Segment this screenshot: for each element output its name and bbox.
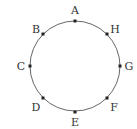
point-a	[74, 20, 77, 23]
circle-diagram: ABCDEFGH	[0, 0, 137, 129]
point-g	[119, 65, 122, 68]
point-c	[29, 65, 32, 68]
point-h	[106, 33, 109, 36]
point-label-f: F	[110, 101, 118, 114]
point-label-d: D	[32, 101, 41, 114]
point-label-e: E	[71, 116, 79, 129]
point-label-h: H	[110, 23, 120, 36]
point-label-b: B	[32, 23, 40, 36]
point-label-g: G	[125, 60, 134, 73]
point-label-c: C	[17, 60, 25, 73]
point-f	[106, 97, 109, 100]
point-b	[42, 33, 45, 36]
point-e	[74, 111, 77, 114]
point-label-a: A	[70, 4, 80, 17]
point-d	[42, 97, 45, 100]
